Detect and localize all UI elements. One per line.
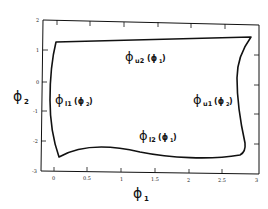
label-phi-u2: ϕ u2 (ϕ 1 ) — [125, 49, 166, 65]
x-tick-label: 1.5 — [151, 176, 159, 182]
label-phi-u1: ϕ u1 (ϕ 2 ) — [193, 92, 233, 108]
x-tick-label: 0.5 — [83, 175, 91, 181]
svg-text:): ) — [173, 133, 177, 142]
label-phi-l2: ϕ l2 (ϕ 1 ) — [139, 128, 177, 144]
y-axis-line — [41, 20, 43, 171]
feasible-region-diagram: 2 1 0 -1 -2 -3 0 0.5 1 1.5 2 2.5 3 ϕ 2 ϕ… — [0, 0, 268, 209]
svg-text:1: 1 — [144, 195, 149, 203]
y-tick-label: -1 — [33, 108, 38, 114]
svg-text:ϕ: ϕ — [125, 49, 134, 64]
svg-text:u2: u2 — [135, 57, 144, 65]
y-tick-label: -2 — [33, 138, 38, 144]
svg-text:(ϕ: (ϕ — [147, 54, 157, 63]
svg-text:2: 2 — [24, 98, 29, 106]
y-tick-label: -3 — [32, 168, 37, 174]
x-tick-label: 1 — [120, 176, 123, 182]
x-tick-label: 3 — [255, 177, 258, 183]
svg-text:): ) — [229, 97, 233, 106]
svg-text:): ) — [162, 54, 166, 63]
svg-text:ϕ: ϕ — [193, 92, 202, 107]
svg-text:ϕ: ϕ — [133, 185, 142, 201]
y-tick-labels: 2 1 0 -1 -2 -3 — [32, 17, 39, 174]
x-tick-label: 0 — [52, 175, 55, 181]
svg-text:(ϕ: (ϕ — [74, 97, 84, 106]
y-tick-label: 1 — [36, 47, 39, 53]
svg-text:(ϕ: (ϕ — [158, 133, 168, 142]
x-tick-label: 2 — [187, 177, 190, 183]
top-frame-line — [43, 20, 259, 25]
x-tick-labels: 0 0.5 1 1.5 2 2.5 3 — [52, 175, 258, 183]
y-tick-label: 0 — [36, 79, 39, 85]
svg-text:ϕ: ϕ — [13, 88, 22, 104]
y-tick-label: 2 — [36, 17, 39, 23]
svg-text:u1: u1 — [203, 100, 213, 108]
x-tick-label: 2.5 — [218, 177, 226, 183]
svg-text:(ϕ: (ϕ — [214, 97, 224, 106]
svg-text:): ) — [89, 97, 93, 106]
svg-text:ϕ: ϕ — [55, 92, 64, 107]
x-axis-label: ϕ 1 — [133, 185, 149, 203]
svg-text:l1: l1 — [65, 100, 72, 108]
x-axis-line — [41, 171, 259, 174]
label-phi-l1: ϕ l1 (ϕ 2 ) — [55, 92, 93, 108]
svg-text:l2: l2 — [149, 136, 156, 144]
svg-text:ϕ: ϕ — [139, 128, 148, 143]
y-axis-label: ϕ 2 — [13, 88, 29, 106]
